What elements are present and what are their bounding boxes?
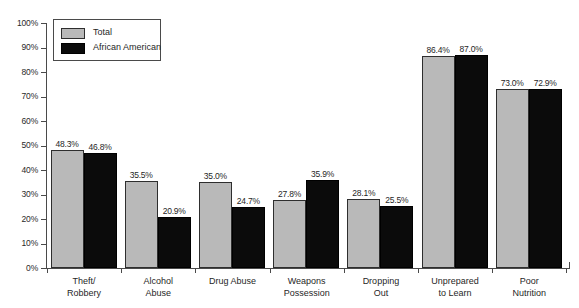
x-axis-tick	[195, 268, 196, 273]
bar	[232, 207, 265, 268]
y-axis-tick-label: 50%	[0, 140, 38, 150]
x-axis-endcap	[569, 262, 570, 269]
y-axis-tick-label: 90%	[0, 42, 38, 52]
bar	[306, 180, 339, 268]
bar-value-label: 87.0%	[451, 44, 492, 54]
bar-value-label: 25.5%	[376, 195, 417, 205]
bar	[496, 89, 529, 268]
x-axis-tick	[121, 268, 122, 273]
bar	[529, 89, 562, 268]
bar	[347, 199, 380, 268]
y-axis-tick	[41, 97, 46, 98]
y-axis-tick-label: 100%	[0, 18, 38, 28]
x-axis-tick	[270, 268, 271, 273]
legend-swatch-african-american-icon	[61, 43, 85, 54]
y-axis-tick	[41, 48, 46, 49]
legend-swatch-total-icon	[61, 28, 85, 39]
x-axis-category-label: Unprepared to Learn	[418, 275, 492, 299]
y-axis-tick	[41, 121, 46, 122]
y-axis-tick	[41, 170, 46, 171]
chart-title	[0, 0, 579, 1]
x-axis-category-label: Poor Nutrition	[492, 275, 566, 299]
y-axis-tick	[41, 23, 46, 24]
y-axis-tick	[41, 268, 46, 269]
x-axis-tick	[566, 268, 567, 273]
legend-label-african-american: African American	[93, 42, 161, 52]
bar	[84, 153, 117, 268]
bar	[273, 200, 306, 268]
bar	[125, 181, 158, 268]
bar	[199, 182, 232, 268]
bar-chart: 0%10%20%30%40%50%60%70%80%90%100% 48.3%4…	[0, 0, 579, 308]
bar-value-label: 72.9%	[525, 78, 566, 88]
x-axis-tick	[418, 268, 419, 273]
x-axis-tick	[344, 268, 345, 273]
chart-legend: Total African American	[53, 19, 161, 61]
y-axis-tick	[41, 72, 46, 73]
bar-value-label: 24.7%	[228, 196, 269, 206]
y-axis-tick-label: 40%	[0, 165, 38, 175]
bar	[158, 217, 191, 268]
bar	[422, 56, 455, 268]
y-axis-tick	[41, 219, 46, 220]
x-axis-category-label: Alcohol Abuse	[121, 275, 195, 299]
y-axis-tick	[41, 244, 46, 245]
bar-value-label: 35.0%	[195, 171, 236, 181]
y-axis-tick-label: 20%	[0, 214, 38, 224]
bar	[455, 55, 488, 268]
bar-value-label: 35.5%	[121, 170, 162, 180]
y-axis-tick-label: 70%	[0, 91, 38, 101]
legend-label-total: Total	[93, 27, 112, 37]
y-axis-tick-label: 30%	[0, 189, 38, 199]
y-axis-tick-label: 10%	[0, 238, 38, 248]
bar-value-label: 35.9%	[302, 169, 343, 179]
x-axis-category-label: Dropping Out	[344, 275, 418, 299]
y-axis-tick-label: 0%	[0, 263, 38, 273]
y-axis-tick	[41, 146, 46, 147]
x-axis-tick	[47, 268, 48, 273]
y-axis-tick	[41, 195, 46, 196]
x-axis-category-label: Drug Abuse	[195, 275, 269, 287]
x-axis-category-label: Theft/ Robbery	[47, 275, 121, 299]
bar-value-label: 27.8%	[269, 189, 310, 199]
y-axis-tick-label: 80%	[0, 67, 38, 77]
bar	[380, 206, 413, 268]
y-axis-tick-label: 60%	[0, 116, 38, 126]
x-axis-category-label: Weapons Possession	[270, 275, 344, 299]
x-axis-tick	[492, 268, 493, 273]
bar	[51, 150, 84, 268]
bar-value-label: 46.8%	[80, 142, 121, 152]
bar-value-label: 20.9%	[154, 206, 195, 216]
